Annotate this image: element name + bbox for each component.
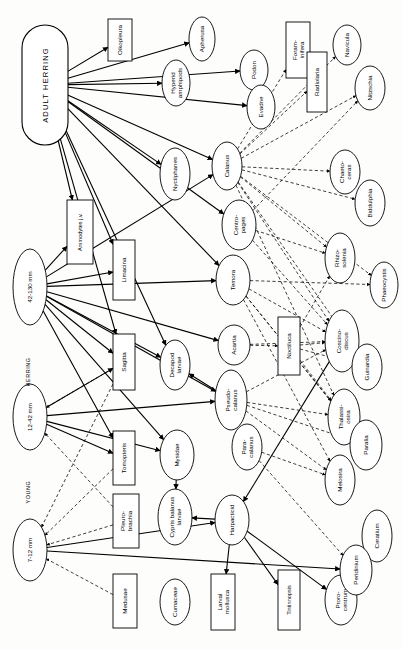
node-mysidae[interactable]: Mysidae [160, 430, 194, 480]
link-adult-herring-to-podon [68, 71, 240, 83]
node-ammodytes[interactable]: Ammodytes j.v. [67, 200, 93, 264]
link-harpacticid-to-tintinnopsis [244, 537, 278, 584]
node-decapod-larvae[interactable]: Decapodlarvae [160, 340, 190, 390]
node-peridinium[interactable]: Peridinium [340, 545, 372, 595]
node-label-herring-7-12: 7-12 mm [26, 538, 33, 562]
link-herring-42-130-to-mysidae [45, 304, 164, 439]
node-label-podon: Podon [250, 61, 257, 79]
link-harpacticid-to-larval-mollusca [226, 545, 229, 574]
node-label-harpacticid: Harpacticid [228, 504, 235, 536]
node-label-medusae: Medusae [121, 588, 128, 614]
link-adult-herring-to-ammodytes [57, 136, 72, 200]
node-label-rhizosolenia: Rhizo-solenia [333, 248, 347, 268]
node-label-tintinnopsis: Tintinnopsis [286, 585, 292, 615]
node-label-evadne: Evadne [257, 96, 264, 118]
link-temora-to-phaeocystis [250, 281, 370, 285]
link-herring-7-12-to-peridinium [47, 551, 340, 569]
node-guinardia[interactable]: Guinardia [352, 344, 382, 390]
link-pseudocalanus-to-decapod-larvae [189, 374, 216, 391]
link-sagitta-to-herring-7-12 [42, 384, 114, 527]
group-label-g-herring: HERRING [25, 357, 31, 386]
node-nitzschia[interactable]: Nitzschia [355, 66, 385, 110]
node-tomopteris[interactable]: Tomopteris [113, 431, 135, 485]
node-melosira[interactable]: Melosira [325, 455, 355, 505]
node-nyctiphanes[interactable]: Nyctiphanes [160, 148, 190, 200]
node-label-acartia: Acartia [230, 335, 237, 355]
node-label-herring-12-42: 12-42 mm [26, 403, 33, 431]
node-herring-7-12[interactable]: 7-12 mm [13, 519, 47, 581]
node-acartia[interactable]: Acartia [218, 325, 250, 365]
node-medusae[interactable]: Medusae [113, 574, 137, 628]
node-label-hyperid-amphipods: Hyperidamphipods [169, 68, 183, 98]
node-label-paracalanus: Para-calanus [240, 436, 254, 457]
node-label-nitzschia: Nitzschia [366, 75, 373, 101]
node-pseudocalanus[interactable]: Pseudo-calanus [215, 370, 247, 430]
node-paracalanus[interactable]: Para-calanus [232, 424, 262, 470]
dashed-link-layer [42, 57, 372, 595]
node-label-apherusa: Apherusa [198, 25, 205, 52]
node-label-nyctiphanes: Nyctiphanes [171, 157, 178, 191]
food-web-svg: ADULT HERRING42-130 mm12-42 mm7-12 mmOik… [0, 0, 403, 650]
node-tintinnopsis[interactable]: Tintinnopsis [278, 570, 300, 630]
node-label-paralia: Paralia [362, 435, 369, 455]
node-foraminifera[interactable]: Foram-inifera [286, 22, 310, 78]
node-centropages[interactable]: Centro-pages [222, 200, 256, 250]
node-label-cumaceae: Cumaceae [171, 586, 178, 616]
link-calanus-to-chaetoceras [242, 167, 330, 171]
node-label-pseudocalanus: Pseudo-calanus [224, 388, 238, 411]
node-label-coscinodiscus: Coscino-discus [335, 329, 349, 353]
link-herring-12-42-to-mysidae [47, 421, 160, 450]
node-label-guinardia: Guinardia [363, 353, 370, 380]
node-rhizosolenia[interactable]: Rhizo-solenia [325, 233, 355, 283]
node-label-ceratium: Ceratium [373, 523, 380, 548]
node-evadne[interactable]: Evadne [247, 85, 275, 129]
link-pleurobrachia-to-herring-7-12 [47, 525, 113, 545]
node-pleurobrachia[interactable]: Pleuro-brachia [113, 494, 139, 548]
node-sagitta[interactable]: Sagitta [113, 334, 135, 390]
link-pseudocalanus-to-thalassiosira [247, 402, 328, 414]
node-calanus[interactable]: Calanus [212, 142, 242, 190]
node-oikopleura[interactable]: Oikopleura [108, 19, 132, 61]
food-web-diagram: ADULT HERRING42-130 mm12-42 mm7-12 mmOik… [0, 0, 403, 650]
node-label-temora: Temora [229, 269, 236, 290]
node-label-limacina: Limacina [120, 257, 127, 282]
link-herring-12-42-to-sagitta [46, 368, 113, 407]
node-chaetoceras[interactable]: Chaeto-ceras [330, 150, 360, 194]
node-label-foraminifera: Foram-inifera [291, 40, 305, 60]
link-centropages-to-rhizosolenia [256, 230, 326, 253]
node-cypris-balanus-larvae[interactable]: Cypris balanuslarvae [158, 489, 192, 545]
link-pleurobrachia-to-herring-12-42 [45, 433, 113, 507]
node-radiolaria[interactable]: Radiolaria [307, 52, 327, 112]
node-noctiluca[interactable]: Noctiluca [278, 317, 300, 375]
link-herring-12-42-to-pseudocalanus [47, 401, 215, 415]
node-biddulphia[interactable]: Biddulphia [355, 180, 385, 226]
link-medusae-to-herring-7-12 [46, 559, 113, 595]
node-navicula[interactable]: Navicula [333, 25, 361, 65]
link-acartia-to-noctiluca [250, 345, 278, 346]
node-podon[interactable]: Podon [240, 50, 268, 90]
node-temora[interactable]: Temora [216, 255, 250, 305]
node-label-phaeocystis: Phaeocystis [380, 268, 387, 301]
node-cumaceae[interactable]: Cumaceae [160, 579, 190, 625]
node-adult-herring[interactable]: ADULT HERRING [22, 25, 68, 145]
link-herring-12-42-to-tomopteris [47, 424, 113, 453]
link-harpacticid-to-cypris-balanus-larvae [192, 518, 215, 519]
group-label-g-young: YOUNG [25, 481, 31, 504]
link-adult-herring-to-nyctiphanes [67, 100, 161, 164]
node-herring-42-130[interactable]: 42-130 mm [13, 249, 47, 325]
node-label-melosira: Melosira [336, 468, 343, 492]
node-apherusa[interactable]: Apherusa [189, 17, 215, 61]
node-hyperid-amphipods[interactable]: Hyperidamphipods [162, 60, 190, 106]
link-adult-herring-to-centropages [67, 101, 224, 214]
node-limacina[interactable]: Limacina [113, 240, 135, 300]
node-larval-mollusca[interactable]: Larvalmollusca [211, 574, 235, 630]
node-label-centropages: Centro-pages [232, 215, 246, 236]
node-label-peridinium: Peridinium [352, 555, 359, 584]
node-paralia[interactable]: Paralia [350, 420, 382, 470]
solid-link-layer [43, 43, 340, 590]
node-label-biddulphia: Biddulphia [366, 188, 373, 217]
node-harpacticid[interactable]: Harpacticid [215, 495, 249, 545]
node-phaeocystis[interactable]: Phaeocystis [370, 262, 398, 308]
node-herring-12-42[interactable]: 12-42 mm [13, 384, 47, 450]
node-label-radiolaria: Radiolaria [313, 68, 320, 96]
